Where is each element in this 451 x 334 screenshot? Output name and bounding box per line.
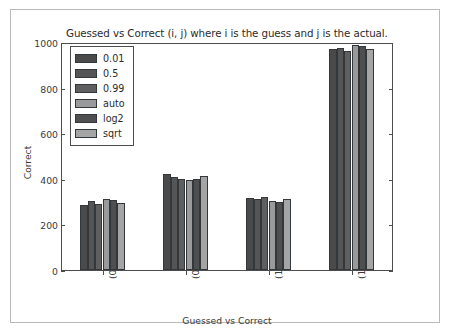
bar bbox=[366, 49, 373, 270]
y-tick-mark bbox=[61, 271, 65, 272]
bar bbox=[352, 45, 359, 270]
legend-label: sqrt bbox=[103, 128, 122, 139]
legend-item: 0.99 bbox=[75, 81, 129, 96]
bar bbox=[186, 180, 193, 270]
legend-item: 0.01 bbox=[75, 51, 129, 66]
bar bbox=[171, 177, 178, 270]
bar bbox=[329, 49, 336, 270]
bar bbox=[254, 199, 261, 270]
x-tick-mark bbox=[103, 271, 104, 275]
bar bbox=[344, 51, 351, 270]
bar bbox=[283, 199, 290, 270]
legend-label: 0.5 bbox=[103, 68, 118, 79]
chart-legend: 0.010.50.99autolog2sqrt bbox=[70, 46, 134, 146]
x-tick-mark bbox=[186, 271, 187, 275]
legend-color-swatch bbox=[75, 129, 97, 138]
legend-item: log2 bbox=[75, 111, 129, 126]
legend-color-swatch bbox=[75, 69, 97, 78]
legend-item: sqrt bbox=[75, 126, 129, 141]
y-axis-title: Correct bbox=[22, 123, 33, 203]
legend-item: 0.5 bbox=[75, 66, 129, 81]
legend-label: 0.01 bbox=[103, 53, 124, 64]
legend-color-swatch bbox=[75, 84, 97, 93]
y-tick-mark-inner bbox=[389, 271, 393, 272]
bar bbox=[95, 204, 102, 270]
y-tick-label: 800 bbox=[24, 83, 58, 94]
bar bbox=[163, 174, 170, 270]
bar bbox=[246, 198, 253, 270]
bar bbox=[200, 176, 207, 270]
legend-label: 0.99 bbox=[103, 83, 124, 94]
bar bbox=[337, 48, 344, 270]
legend-label: log2 bbox=[103, 113, 124, 124]
chart-title: Guessed vs Correct (i, j) where i is the… bbox=[66, 27, 406, 39]
legend-color-swatch bbox=[75, 99, 97, 108]
y-tick-label: 0 bbox=[24, 266, 58, 277]
y-tick-label: 200 bbox=[24, 220, 58, 231]
bar bbox=[261, 197, 268, 270]
x-tick-mark bbox=[269, 271, 270, 275]
legend-item: auto bbox=[75, 96, 129, 111]
legend-color-swatch bbox=[75, 114, 97, 123]
bar bbox=[178, 179, 185, 270]
bar bbox=[80, 205, 87, 270]
x-axis-title: Guessed vs Correct bbox=[61, 315, 393, 326]
bar bbox=[110, 200, 117, 270]
x-tick-mark bbox=[352, 271, 353, 275]
bar bbox=[193, 179, 200, 270]
bar bbox=[269, 201, 276, 270]
bar bbox=[103, 199, 110, 270]
bar bbox=[359, 46, 366, 270]
bar-chart-figure: Guessed vs Correct (i, j) where i is the… bbox=[0, 0, 451, 334]
y-tick-label: 1000 bbox=[24, 38, 58, 49]
bar bbox=[88, 201, 95, 270]
legend-label: auto bbox=[103, 98, 125, 109]
legend-color-swatch bbox=[75, 54, 97, 63]
bar bbox=[117, 203, 124, 270]
bar bbox=[276, 202, 283, 270]
